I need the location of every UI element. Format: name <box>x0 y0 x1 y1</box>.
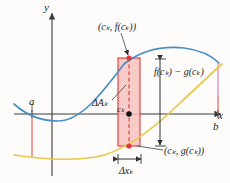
figure-area-between-curves: y x a b cₖ (cₖ, f(cₖ)) ΔAₖ f(cₖ) − g(cₖ)… <box>0 0 230 183</box>
delta-area-label: ΔAₖ <box>92 98 108 108</box>
lower-point-label: (cₖ, g(cₖ)) <box>164 146 204 156</box>
interval-start-label: a <box>29 96 35 107</box>
height-difference-label: f(cₖ) − g(cₖ) <box>154 67 204 77</box>
leader-line-bottom-point <box>137 146 163 150</box>
delta-x-label: Δxₖ <box>119 166 133 176</box>
ck-label: cₖ <box>117 105 125 114</box>
interval-end-label: b <box>213 121 219 132</box>
upper-point-dot <box>126 55 131 60</box>
ck-dot <box>126 111 132 117</box>
leader-line-top-point <box>121 33 128 55</box>
lower-point-dot <box>126 143 131 148</box>
y-axis-label: y <box>44 2 49 13</box>
upper-point-label: (cₖ, f(cₖ)) <box>98 22 136 32</box>
